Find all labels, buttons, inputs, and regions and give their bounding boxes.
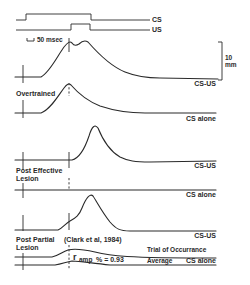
- eyeblink-response-figure: CS US 50 msec 10 mm CS-US Overtrained CS…: [0, 0, 250, 285]
- response-trace: [15, 195, 216, 231]
- cs-label: CS: [152, 16, 162, 23]
- time-scale-marker: [27, 38, 34, 41]
- panel-post-effective-cs-us: CS-US: [15, 126, 216, 170]
- trial-of-occurrence-label: Trial of Occurrance: [147, 246, 207, 253]
- response-trace: [15, 126, 216, 162]
- group-label-post-partial-line2: Lesion: [16, 244, 39, 251]
- amplitude-scale-bracket: [218, 42, 222, 80]
- group-label-overtrained: Overtrained: [16, 90, 55, 97]
- stimulus-timing: CS US: [16, 14, 162, 33]
- response-trace: [15, 41, 218, 79]
- trace-label: CS alone: [186, 115, 216, 122]
- group-label-post-partial-line1: Post Partial: [16, 236, 55, 243]
- trace-label: CS alone: [186, 191, 216, 198]
- citation-label: (Clark et al, 1984): [64, 236, 122, 244]
- cs-timing-line: [16, 14, 150, 20]
- average-label: Average: [147, 257, 173, 265]
- amplitude-scale-unit: mm: [225, 61, 237, 68]
- response-trace: [15, 84, 216, 113]
- panel-post-effective-cs-alone: Post Effective Lesion CS alone: [15, 167, 216, 198]
- time-scale-bar: 50 msec: [27, 36, 63, 43]
- stat-symbol: r: [73, 252, 77, 262]
- amplitude-scale-bar: 10 mm: [218, 42, 237, 80]
- stat-subscript: amp: [79, 256, 92, 264]
- panel-post-partial-cs-alone: Post Partial Lesion (Clark et al, 1984) …: [15, 236, 216, 270]
- panel-post-partial-cs-us: CS-US: [15, 195, 216, 239]
- group-label-post-effective-line1: Post Effective: [16, 167, 62, 174]
- trace-label: CS alone: [186, 257, 216, 264]
- amplitude-scale-value: 10: [225, 54, 233, 61]
- correlation-stat: r amp % = 0.93: [73, 252, 124, 264]
- panel-overtrained-cs-alone: Overtrained CS alone: [15, 83, 216, 122]
- us-timing-line: [16, 24, 150, 30]
- time-scale-label: 50 msec: [37, 36, 63, 43]
- stat-expression: % = 0.93: [96, 256, 124, 263]
- group-label-post-effective-line2: Lesion: [16, 175, 39, 182]
- trace-label: CS-US: [194, 80, 216, 87]
- panel-normal-cs-us: CS-US: [15, 38, 218, 87]
- trace-label: CS-US: [194, 232, 216, 239]
- us-label: US: [152, 26, 162, 33]
- trace-label: CS-US: [194, 162, 216, 169]
